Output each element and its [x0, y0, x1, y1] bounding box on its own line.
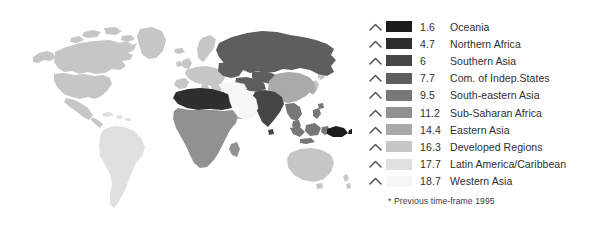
legend-row[interactable]: 14.4 Eastern Asia — [364, 121, 613, 138]
legend-row[interactable]: 1.6 Oceania — [364, 18, 613, 35]
legend-label: Southern Asia — [450, 55, 613, 67]
legend-value: 6 — [420, 55, 450, 67]
legend-swatch — [386, 38, 412, 49]
map-panel — [0, 0, 352, 228]
legend-row[interactable]: 7.7 Com. of Indep.States — [364, 70, 613, 87]
legend-label: Western Asia — [450, 175, 613, 187]
legend-swatch — [386, 141, 412, 152]
chevron-up-icon[interactable] — [364, 143, 386, 151]
legend-label: Oceania — [450, 21, 613, 33]
legend-row[interactable]: 4.7 Northern Africa — [364, 35, 613, 52]
legend-swatch — [386, 107, 412, 118]
legend-row[interactable]: 18.7 Western Asia — [364, 173, 613, 190]
world-choropleth-map — [0, 0, 352, 228]
legend-value: 1.6 — [420, 21, 450, 33]
legend-value: 16.3 — [420, 141, 450, 153]
legend-row[interactable]: 9.5 South-eastern Asia — [364, 87, 613, 104]
legend-swatch — [386, 124, 412, 135]
legend-swatch — [386, 176, 412, 187]
chevron-up-icon[interactable] — [364, 109, 386, 117]
legend-label: South-eastern Asia — [450, 89, 613, 101]
figure-root: 1.6 Oceania 4.7 Northern Africa 6 Southe… — [0, 0, 613, 228]
legend-value: 11.2 — [420, 107, 450, 119]
legend-swatch — [386, 55, 412, 66]
chevron-up-icon[interactable] — [364, 177, 386, 185]
chevron-up-icon[interactable] — [364, 91, 386, 99]
legend-value: 7.7 — [420, 72, 450, 84]
legend-swatch — [386, 90, 412, 101]
legend-value: 9.5 — [420, 89, 450, 101]
legend-label: Com. of Indep.States — [450, 72, 613, 84]
legend-row[interactable]: 17.7 Latin America/Caribbean — [364, 156, 613, 173]
legend-swatch — [386, 21, 412, 32]
legend-value: 17.7 — [420, 158, 450, 170]
legend-swatch — [386, 73, 412, 84]
legend-swatch — [386, 159, 412, 170]
legend-label: Developed Regions — [450, 141, 613, 153]
legend-row[interactable]: 16.3 Developed Regions — [364, 138, 613, 155]
legend-label: Latin America/Caribbean — [450, 158, 613, 170]
legend-value: 18.7 — [420, 175, 450, 187]
chevron-up-icon[interactable] — [364, 126, 386, 134]
legend-label: Northern Africa — [450, 38, 613, 50]
legend-value: 4.7 — [420, 38, 450, 50]
legend-label: Eastern Asia — [450, 124, 613, 136]
chevron-up-icon[interactable] — [364, 40, 386, 48]
chevron-up-icon[interactable] — [364, 74, 386, 82]
legend-value: 14.4 — [420, 124, 450, 136]
chevron-up-icon[interactable] — [364, 23, 386, 31]
chevron-up-icon[interactable] — [364, 57, 386, 65]
footnote: * Previous time-frame 1995 — [388, 196, 495, 207]
legend-label: Sub-Saharan Africa — [450, 107, 613, 119]
chevron-up-icon[interactable] — [364, 160, 386, 168]
legend-row[interactable]: 11.2 Sub-Saharan Africa — [364, 104, 613, 121]
legend-row[interactable]: 6 Southern Asia — [364, 52, 613, 69]
